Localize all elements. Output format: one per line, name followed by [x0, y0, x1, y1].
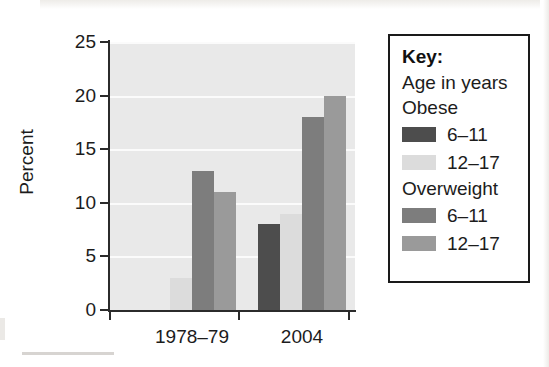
bar: [192, 171, 214, 310]
x-axis-tick-label: 2004: [247, 326, 357, 347]
bar: [280, 214, 302, 310]
y-axis-tick: [100, 41, 109, 43]
y-axis-tick-label: 15: [50, 139, 96, 158]
x-axis-tick-label: 1978–79: [137, 326, 247, 347]
y-axis-tick: [100, 95, 109, 97]
y-axis-tick-label: 20: [50, 86, 96, 105]
legend-item-label: 6–11: [447, 206, 488, 225]
legend-title: Key:: [402, 45, 528, 69]
legend-box: Key: Age in years Obese6–1112–17Overweig…: [388, 34, 530, 283]
legend-item[interactable]: 6–11: [402, 120, 528, 148]
legend-item[interactable]: 6–11: [402, 201, 528, 229]
legend-subtitle: Age in years: [402, 70, 528, 95]
y-axis-tick: [100, 202, 109, 204]
legend-item[interactable]: 12–17: [402, 148, 528, 176]
bar: [170, 278, 192, 310]
legend-group-label: Obese: [402, 95, 528, 120]
x-axis-tick: [238, 310, 240, 320]
y-axis-tick: [100, 255, 109, 257]
y-axis-title: Percent: [17, 92, 37, 232]
legend-item-label: 12–17: [447, 234, 500, 253]
y-axis-tick-label: 10: [50, 193, 96, 212]
x-axis-line: [108, 310, 356, 312]
legend-swatch-icon: [402, 208, 436, 223]
legend-group-label: Overweight: [402, 176, 528, 201]
bar: [214, 192, 236, 310]
y-axis-tick: [100, 309, 109, 311]
bar: [302, 117, 324, 310]
legend-item-label: 12–17: [447, 153, 500, 172]
legend-swatch-icon: [402, 127, 436, 142]
y-axis-tick-label: 0: [50, 300, 96, 319]
legend-item-label: 6–11: [447, 125, 488, 144]
x-axis-tick: [109, 310, 111, 320]
x-axis-tick: [348, 310, 350, 320]
bar: [324, 96, 346, 310]
legend-groups: Obese6–1112–17Overweight6–1112–17: [402, 95, 528, 257]
legend-swatch-icon: [402, 236, 436, 251]
legend-swatch-icon: [402, 155, 436, 170]
gridline: [110, 42, 355, 44]
y-axis-line: [108, 40, 110, 312]
y-axis-tick: [100, 148, 109, 150]
legend-item[interactable]: 12–17: [402, 229, 528, 257]
y-axis-tick-label: 5: [50, 246, 96, 265]
bar: [258, 224, 280, 310]
gridline: [110, 96, 355, 98]
y-axis-tick-label: 25: [50, 32, 96, 51]
